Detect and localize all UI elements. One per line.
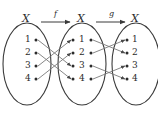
element-label-right-4: 4 [132,74,138,83]
element-label-left-2: 2 [25,48,31,57]
element-dot-middle-in-4 [72,78,75,81]
element-dot-middle-out-1 [90,39,93,42]
element-dot-left-2 [35,52,38,55]
map-label-g: g [109,10,114,18]
element-dot-right-2 [126,52,129,55]
element-label-middle-4: 4 [79,74,85,83]
element-label-middle-1: 1 [79,35,85,44]
element-dot-right-3 [126,65,129,68]
element-dot-left-4 [35,78,38,81]
element-dot-middle-out-3 [90,65,93,68]
element-label-middle-2: 2 [79,48,85,57]
element-dot-middle-out-2 [90,52,93,55]
set-label-right: X [131,13,139,24]
element-dot-right-4 [126,78,129,81]
map-label-f: f [54,10,57,18]
set-label-middle: X [77,13,85,24]
element-label-left-4: 4 [25,74,31,83]
element-dot-left-3 [35,65,38,68]
element-dot-middle-in-3 [72,65,75,68]
set-label-left: X [22,13,30,24]
element-dot-right-1 [126,39,129,42]
element-dot-left-1 [35,39,38,42]
element-dot-middle-in-1 [72,39,75,42]
element-label-right-1: 1 [132,35,138,44]
element-label-left-1: 1 [25,35,31,44]
element-dot-middle-in-2 [72,52,75,55]
element-label-right-2: 2 [132,48,138,57]
element-label-middle-3: 3 [79,61,85,70]
element-dot-middle-out-4 [90,78,93,81]
element-label-left-3: 3 [25,61,31,70]
function-composition-diagram: X X X f g 1 2 3 4 1 2 3 4 1 2 3 4 [0,0,158,115]
element-label-right-3: 3 [132,61,138,70]
